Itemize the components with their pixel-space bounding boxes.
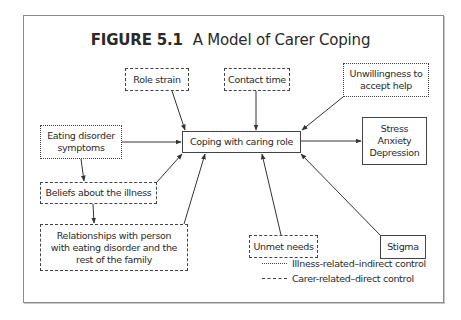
node-stigma: Stigma <box>380 235 426 259</box>
node-relationships: Relationships with person with eating di… <box>40 224 188 271</box>
node-eating-disorder-label: Eating disorder symptoms <box>44 130 118 154</box>
node-coping-label: Coping with caring role <box>190 136 293 148</box>
node-eating-disorder-symptoms: Eating disorder symptoms <box>40 125 122 159</box>
arrow-relationships-to-coping <box>184 154 205 224</box>
arrow-stigma-to-coping <box>301 154 380 235</box>
legend-dashed: Carer-related–direct control <box>262 273 414 284</box>
node-unwillingness: Unwillingness to accept help <box>343 63 429 97</box>
node-unmet-needs: Unmet needs <box>249 235 318 258</box>
legend-dotted-swatch <box>262 263 287 264</box>
node-contact-time: Contact time <box>224 68 290 91</box>
node-role-strain: Role strain <box>125 68 189 91</box>
legend-dotted: Illness-related–indirect control <box>262 258 426 269</box>
node-contact-time-label: Contact time <box>228 74 286 86</box>
node-stigma-label: Stigma <box>387 241 419 253</box>
node-unmet-needs-label: Unmet needs <box>253 241 313 253</box>
node-unwillingness-label: Unwillingness to accept help <box>347 68 425 92</box>
node-beliefs-label: Beliefs about the illness <box>45 187 151 199</box>
arrow-unwillingness-to-coping <box>302 97 343 130</box>
node-role-strain-label: Role strain <box>133 74 180 86</box>
arrow-role-strain-to-coping <box>172 91 185 130</box>
legend-dotted-label: Illness-related–indirect control <box>292 258 426 269</box>
node-outcomes-label: Stress Anxiety Depression <box>369 123 419 159</box>
arrow-eating-disorder-to-beliefs <box>81 159 84 181</box>
node-outcomes: Stress Anxiety Depression <box>362 117 427 165</box>
arrow-beliefs-to-relationships <box>93 204 94 223</box>
node-coping: Coping with caring role <box>182 131 301 153</box>
node-beliefs: Beliefs about the illness <box>40 182 157 204</box>
legend-dashed-label: Carer-related–direct control <box>292 273 414 284</box>
arrow-beliefs-to-coping <box>157 154 182 182</box>
node-relationships-label: Relationships with person with eating di… <box>47 230 181 266</box>
arrow-unmet-needs-to-coping <box>262 154 281 235</box>
legend-dashed-swatch <box>262 278 287 279</box>
